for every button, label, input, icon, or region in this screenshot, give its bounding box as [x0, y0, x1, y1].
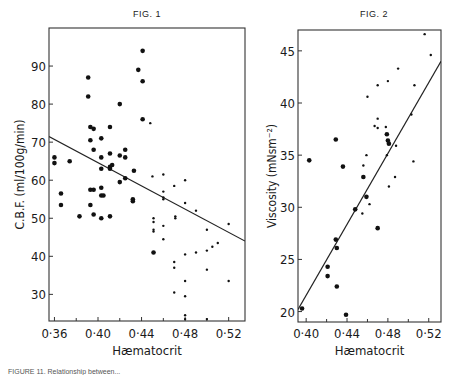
x-tick-label: 0·48 [375, 326, 401, 341]
data-point [394, 176, 396, 178]
data-point [413, 84, 415, 86]
data-point [341, 164, 346, 169]
x-axis-label: Hæmatocrit [335, 343, 405, 358]
data-point [307, 158, 312, 163]
y-tick-label: 30 [280, 200, 295, 215]
data-point [387, 80, 389, 82]
data-point [395, 145, 397, 147]
plot-area: 0·400·440·480·52202530354045HæmatocritVi… [265, 30, 442, 358]
data-point [376, 84, 378, 86]
y-tick-label: 25 [280, 252, 295, 267]
data-point [300, 306, 305, 311]
data-point [325, 264, 330, 269]
data-point [333, 237, 338, 242]
data-point [373, 125, 375, 127]
data-point [344, 312, 349, 317]
axes-frame [298, 30, 441, 322]
data-point [325, 274, 330, 279]
data-point [365, 154, 367, 156]
regression-line [298, 61, 441, 309]
data-point [386, 154, 388, 156]
y-tick-label: 35 [280, 148, 295, 163]
data-point [376, 127, 378, 129]
data-point [335, 246, 340, 251]
x-tick-label: 0·40 [293, 326, 319, 341]
data-point [412, 160, 414, 162]
data-point [376, 117, 378, 119]
data-point [410, 113, 412, 115]
data-point [385, 132, 390, 137]
y-tick-label: 20 [280, 305, 295, 320]
data-point [335, 284, 340, 289]
data-point [361, 175, 366, 180]
data-point [430, 54, 432, 56]
data-point [375, 226, 380, 231]
data-point [385, 126, 387, 128]
y-tick-label: 40 [280, 96, 295, 111]
y-tick-label: 45 [280, 44, 295, 59]
data-point [362, 164, 364, 166]
x-tick-label: 0·52 [416, 326, 442, 341]
data-point [364, 195, 369, 200]
x-tick-label: 0·44 [334, 326, 360, 341]
data-point [387, 141, 392, 146]
data-point [361, 212, 363, 214]
figure-2-plot: 0·400·440·480·52202530354045HæmatocritVi… [0, 0, 451, 360]
data-point [368, 203, 370, 205]
data-layer [298, 33, 441, 317]
data-point [366, 96, 368, 98]
y-axis-label: Viscosity (mNsm⁻²) [265, 124, 279, 228]
data-point [423, 33, 425, 35]
data-point [333, 137, 338, 142]
figure-2: FIG. 2 0·400·440·480·52202530354045Hæmat… [0, 0, 451, 360]
figure-caption: FIGURE 11. Relationship between... [8, 368, 120, 375]
data-point [397, 67, 399, 69]
data-point [353, 207, 358, 212]
data-point [388, 185, 390, 187]
